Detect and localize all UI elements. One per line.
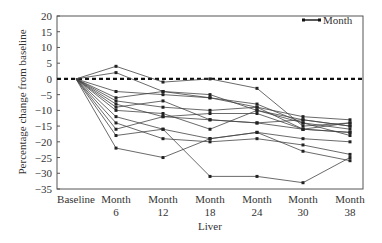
- data-point-marker: [302, 128, 305, 131]
- data-point-marker: [349, 125, 352, 128]
- data-point-marker: [256, 137, 259, 140]
- data-point-marker: [162, 137, 165, 140]
- data-point-marker: [349, 156, 352, 159]
- data-point-marker: [302, 125, 305, 128]
- x-axis-label: Liver: [198, 220, 222, 232]
- series-line: [76, 79, 352, 121]
- y-axis: 20151050−5−10−15−20−25−30−35: [35, 10, 60, 195]
- data-point-marker: [209, 77, 212, 80]
- line-chart: 20151050−5−10−15−20−25−30−35 BaselineMon…: [0, 0, 382, 243]
- legend-marker-icon: [318, 19, 321, 22]
- data-point-marker: [209, 137, 212, 140]
- data-point-marker: [349, 140, 352, 143]
- data-point-marker: [256, 106, 259, 109]
- data-point-marker: [256, 175, 259, 178]
- x-tick-label: Month: [288, 193, 318, 205]
- data-point-marker: [162, 106, 165, 109]
- data-point-marker: [115, 115, 118, 118]
- data-point-marker: [209, 109, 212, 112]
- x-tick-label: Month: [195, 193, 225, 205]
- data-point-marker: [209, 175, 212, 178]
- y-tick-label: −35: [35, 183, 53, 195]
- data-point-marker: [209, 128, 212, 131]
- y-tick-label: 20: [41, 10, 53, 22]
- data-point-marker: [256, 103, 259, 106]
- data-point-marker: [209, 96, 212, 99]
- y-tick-label: 5: [47, 57, 53, 69]
- legend-label: Month: [323, 14, 353, 26]
- x-tick-label: Month: [335, 193, 365, 205]
- data-point-marker: [209, 118, 212, 121]
- data-point-marker: [302, 137, 305, 140]
- data-point-marker: [162, 156, 165, 159]
- data-point-marker: [349, 131, 352, 134]
- data-point-marker: [115, 96, 118, 99]
- x-axis: BaselineMonth6Month12Month18Month24Month…: [57, 193, 365, 218]
- data-point-marker: [349, 121, 352, 124]
- data-point-marker: [115, 121, 118, 124]
- data-point-marker: [115, 109, 118, 112]
- data-point-marker: [209, 112, 212, 115]
- y-tick-label: 0: [47, 73, 53, 85]
- data-point-marker: [209, 93, 212, 96]
- data-point-marker: [162, 112, 165, 115]
- x-tick-label: 24: [252, 206, 264, 218]
- data-point-marker: [115, 99, 118, 102]
- x-tick-label: Baseline: [57, 193, 95, 205]
- data-point-marker: [349, 159, 352, 162]
- data-point-marker: [302, 118, 305, 121]
- series-line: [76, 79, 352, 184]
- x-tick-label: 18: [205, 206, 217, 218]
- data-point-marker: [115, 106, 118, 109]
- data-point-marker: [302, 181, 305, 184]
- data-point-marker: [302, 115, 305, 118]
- data-point-marker: [349, 134, 352, 137]
- data-point-marker: [162, 93, 165, 96]
- data-point-marker: [115, 71, 118, 74]
- y-tick-label: −25: [35, 152, 53, 164]
- data-point-marker: [115, 65, 118, 68]
- legend-marker-icon: [302, 19, 305, 22]
- y-tick-label: −30: [35, 167, 53, 179]
- data-point-marker: [302, 121, 305, 124]
- data-point-marker: [115, 134, 118, 137]
- series-lines: [76, 65, 352, 184]
- y-tick-label: 10: [41, 41, 53, 53]
- data-point-marker: [256, 131, 259, 134]
- data-point-marker: [115, 90, 118, 93]
- x-tick-label: 6: [113, 206, 119, 218]
- data-point-marker: [162, 115, 165, 118]
- y-tick-label: −15: [35, 120, 53, 132]
- data-point-marker: [162, 128, 165, 131]
- data-point-marker: [209, 140, 212, 143]
- data-point-marker: [115, 103, 118, 106]
- x-tick-label: 38: [345, 206, 357, 218]
- data-point-marker: [302, 143, 305, 146]
- x-tick-label: Month: [101, 193, 131, 205]
- data-point-marker: [115, 128, 118, 131]
- x-tick-label: 30: [298, 206, 310, 218]
- data-point-marker: [162, 99, 165, 102]
- data-point-marker: [162, 90, 165, 93]
- y-tick-label: −10: [35, 104, 53, 116]
- x-tick-label: Month: [242, 193, 272, 205]
- y-tick-label: −20: [35, 136, 53, 148]
- data-point-marker: [256, 112, 259, 115]
- data-point-marker: [349, 118, 352, 121]
- data-point-marker: [302, 150, 305, 153]
- y-axis-label: Percentage change from baseline: [16, 29, 28, 174]
- data-point-marker: [162, 81, 165, 84]
- data-point-marker: [256, 109, 259, 112]
- y-tick-label: 15: [41, 26, 53, 38]
- x-tick-label: 12: [158, 206, 169, 218]
- y-tick-label: −5: [40, 89, 52, 101]
- data-point-marker: [349, 153, 352, 156]
- x-tick-label: Month: [148, 193, 178, 205]
- plot-frame: [57, 16, 363, 189]
- data-point-marker: [349, 128, 352, 131]
- data-point-marker: [115, 147, 118, 150]
- data-point-marker: [256, 121, 259, 124]
- data-point-marker: [256, 87, 259, 90]
